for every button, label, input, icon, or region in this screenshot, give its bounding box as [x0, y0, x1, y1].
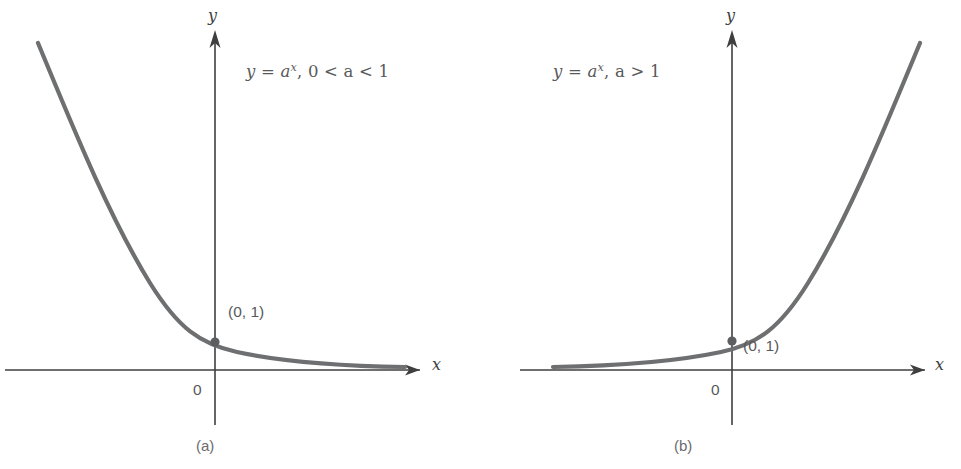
panel-caption-a: (a): [196, 437, 214, 454]
equation-label-a: y = ax, 0 < a < 1: [246, 62, 389, 81]
panel-b: y = ax, a > 1 y x (0, 1) 0 (b): [481, 0, 961, 469]
equation-equals-b: =: [568, 62, 582, 81]
exponential-functions-figure: y = ax, 0 < a < 1 y x (0, 1) 0 (a): [0, 0, 961, 469]
curve-a: [38, 43, 405, 367]
equation-comma-b: ,: [604, 62, 609, 81]
point-marker-a: [210, 337, 219, 346]
point-label-a: (0, 1): [228, 303, 264, 321]
y-axis-b: [727, 30, 738, 425]
point-label-b: (0, 1): [743, 337, 779, 355]
y-axis-label-a: y: [208, 6, 217, 25]
point-marker-b: [727, 336, 736, 345]
y-axis-label-b: y: [726, 6, 735, 25]
equation-label-b: y = ax, a > 1: [553, 62, 661, 81]
equation-condition-b: a > 1: [615, 62, 661, 81]
panel-a-plot: [0, 0, 480, 469]
x-axis-label-a: x: [432, 355, 441, 374]
equation-lhs-b: y: [553, 62, 563, 81]
y-axis-a: [210, 30, 221, 425]
panel-caption-b: (b): [674, 437, 692, 454]
equation-equals-a: =: [261, 62, 275, 81]
panel-a: y = ax, 0 < a < 1 y x (0, 1) 0 (a): [0, 0, 480, 469]
origin-label-a: 0: [193, 381, 202, 399]
equation-lhs-a: y: [246, 62, 256, 81]
x-axis-label-b: x: [935, 355, 944, 374]
equation-base-a: a: [280, 62, 290, 81]
curve-b: [553, 43, 920, 367]
origin-label-b: 0: [711, 381, 720, 399]
equation-condition-a: 0 < a < 1: [308, 62, 389, 81]
equation-base-b: a: [587, 62, 597, 81]
equation-comma-a: ,: [297, 62, 302, 81]
